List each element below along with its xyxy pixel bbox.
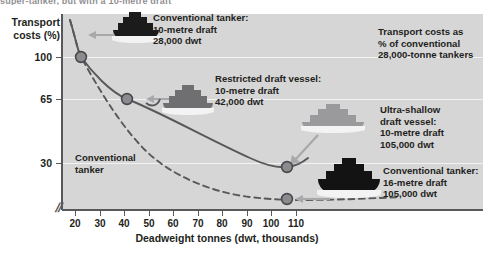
y-tick-label-65: 65 — [12, 93, 52, 105]
ship-conventional-tanker-105k — [318, 158, 380, 202]
annotation-restricted-42k: Restricted draft vessel: 10-metre draft … — [215, 73, 343, 108]
x-tick-label-80: 80 — [210, 218, 234, 229]
x-tick-label-40: 40 — [112, 218, 136, 229]
curve-label-conventional-tanker: Conventional tanker — [75, 152, 165, 175]
x-axis-title: Deadweight tonnes (dwt, thousands) — [62, 232, 392, 244]
y-tick-label-30: 30 — [12, 157, 52, 169]
annotation-ultra-shallow-105k: Ultra-shallow draft vessel: 10-metre dra… — [380, 104, 480, 150]
annotation-conventional-28k: Conventional tanker: 10-metre draft 28,0… — [153, 12, 273, 47]
x-tick-40 — [124, 211, 125, 216]
ship-restricted-draft-42k — [163, 85, 213, 117]
x-tick-label-30: 30 — [88, 218, 112, 229]
x-tick-30 — [100, 211, 101, 216]
y-tick-100 — [56, 57, 62, 58]
x-tick-label-50: 50 — [137, 218, 161, 229]
legend-note: Transport costs as % of conventional 28,… — [378, 26, 483, 61]
annotation-conventional-105k: Conventional tanker: 16-metre draft 105,… — [383, 165, 483, 200]
ship-ultra-shallow-draft-105k — [302, 104, 364, 138]
x-tick-label-100: 100 — [259, 218, 283, 229]
x-tick-label-70: 70 — [186, 218, 210, 229]
chart-figure: super-tanker, but with a 10-metre draft … — [0, 0, 483, 262]
y-axis-title: Transport costs (%) — [2, 16, 60, 41]
top-cropped-headline: super-tanker, but with a 10-metre draft — [0, 0, 483, 5]
x-tick-80 — [222, 211, 223, 216]
x-tick-60 — [173, 211, 174, 216]
x-tick-label-90: 90 — [235, 218, 259, 229]
x-tick-50 — [149, 211, 150, 216]
y-axis-line — [61, 14, 63, 210]
x-tick-label-20: 20 — [63, 218, 87, 229]
x-tick-label-110: 110 — [284, 218, 308, 229]
x-tick-90 — [247, 211, 248, 216]
x-tick-70 — [198, 211, 199, 216]
y-tick-label-100: 100 — [12, 51, 52, 63]
x-tick-20 — [75, 211, 76, 216]
x-tick-label-60: 60 — [161, 218, 185, 229]
x-tick-100 — [271, 211, 272, 216]
x-tick-110 — [296, 211, 297, 216]
y-tick-30 — [56, 163, 62, 164]
y-tick-65 — [56, 99, 62, 100]
